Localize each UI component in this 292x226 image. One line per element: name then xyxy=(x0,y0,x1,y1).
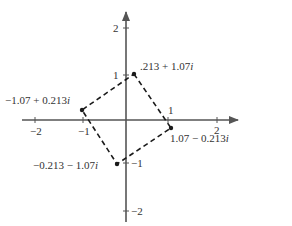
x-tick-label: 1 xyxy=(168,104,174,116)
y-tick-label: 2 xyxy=(113,22,119,34)
vertex-point xyxy=(80,108,84,112)
vertex-point xyxy=(115,162,119,166)
vertex-point xyxy=(169,126,173,130)
y-tick-label: −1 xyxy=(131,157,143,169)
vertex-label-bottom: −0.213 − 1.07i xyxy=(33,159,98,171)
vertex-point xyxy=(132,72,136,76)
complex-plane-diagram: −2 −1 1 2 2 1 −1 −2 .213 + 1.07i 1.07 − … xyxy=(0,0,292,226)
x-tick-label: −1 xyxy=(78,125,90,137)
vertex-label-right: 1.07 − 0.213i xyxy=(170,132,229,144)
y-tick-label: 1 xyxy=(113,69,119,81)
x-tick-label: −2 xyxy=(30,125,42,137)
vertex-label-left: −1.07 + 0.213i xyxy=(5,94,70,106)
y-tick-label: −2 xyxy=(131,205,143,217)
vertex-label-top: .213 + 1.07i xyxy=(140,60,193,72)
